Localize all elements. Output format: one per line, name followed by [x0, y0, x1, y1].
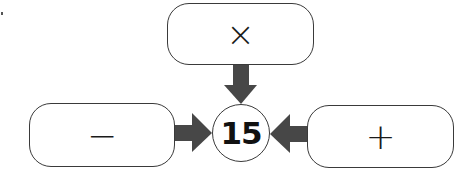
center-number-circle: 15	[212, 104, 270, 162]
addition-sign: +	[365, 116, 395, 157]
arrow-left-icon	[270, 114, 309, 153]
addition-box[interactable]: +	[307, 105, 454, 168]
center-number: 15	[220, 115, 261, 151]
arrow-right-icon	[173, 113, 212, 152]
multiplication-sign: ×	[226, 14, 255, 54]
arrow-down-icon	[224, 64, 257, 104]
multiplication-box[interactable]: ×	[167, 3, 314, 65]
subtraction-box[interactable]: −	[29, 103, 175, 167]
subtraction-sign: −	[87, 115, 117, 156]
